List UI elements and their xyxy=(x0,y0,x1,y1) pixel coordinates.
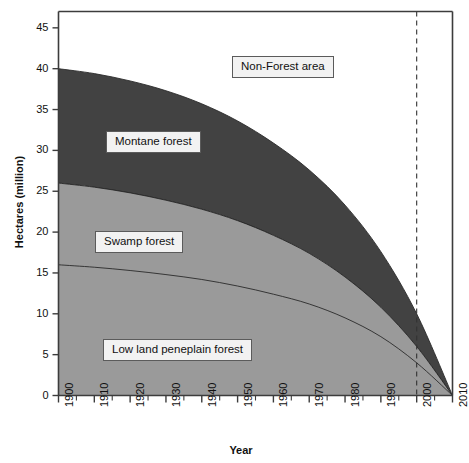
y-tick-label-45: 45 xyxy=(9,22,49,33)
y-axis-title: Hectares (million) xyxy=(13,152,25,252)
y-tick-label-10: 10 xyxy=(9,308,49,319)
x-tick-label-1900: 1900 xyxy=(64,382,75,406)
x-tick-label-1970: 1970 xyxy=(314,382,325,406)
y-tick-label-0: 0 xyxy=(9,390,49,401)
y-tick-label-15: 15 xyxy=(9,267,49,278)
y-axis-tick-marks xyxy=(53,28,59,396)
x-tick-label-1980: 1980 xyxy=(350,382,361,406)
callout-non-forest-area: Non-Forest area xyxy=(232,56,334,78)
x-tick-label-2000: 2000 xyxy=(422,382,433,406)
x-tick-label-2010: 2010 xyxy=(458,382,469,406)
x-tick-label-1990: 1990 xyxy=(386,382,397,406)
x-tick-label-1930: 1930 xyxy=(171,382,182,406)
x-tick-label-1920: 1920 xyxy=(135,382,146,406)
callout-montane-forest: Montane forest xyxy=(106,131,201,153)
y-tick-label-5: 5 xyxy=(9,349,49,360)
callout-low-land-peneplain-forest: Low land peneplain forest xyxy=(103,339,252,361)
y-tick-label-35: 35 xyxy=(9,104,49,115)
y-tick-label-40: 40 xyxy=(9,63,49,74)
x-tick-label-1960: 1960 xyxy=(278,382,289,406)
x-axis-title: Year xyxy=(181,444,301,456)
x-tick-label-1940: 1940 xyxy=(207,382,218,406)
x-tick-label-1950: 1950 xyxy=(243,382,254,406)
x-tick-label-1910: 1910 xyxy=(99,382,110,406)
callout-swamp-forest: Swamp forest xyxy=(95,231,183,253)
